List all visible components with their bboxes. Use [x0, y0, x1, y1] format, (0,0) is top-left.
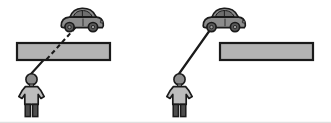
barrier-bar [17, 43, 110, 60]
person-icon [19, 74, 44, 117]
barrier-bar [220, 43, 313, 60]
right-panel-clear-view [167, 8, 313, 116]
left-panel-occluded-view [17, 8, 110, 116]
sight-line-solid [179, 27, 213, 75]
diagram-canvas [0, 0, 331, 123]
occlusion-diagram [0, 0, 331, 123]
car-icon [203, 8, 245, 32]
car-icon [61, 8, 103, 32]
person-icon [167, 74, 192, 117]
